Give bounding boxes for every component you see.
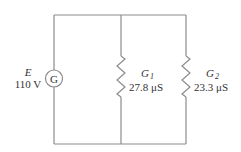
- resistor-g2-icon: [182, 56, 190, 97]
- g2-name: G2: [206, 67, 219, 81]
- circuit-diagram: G E 110 V G1 27.8 μS G2 23.3 μS: [0, 0, 241, 152]
- g2-value: 23.3 μS: [194, 81, 228, 93]
- generator-symbol: G: [50, 73, 58, 85]
- source-name: E: [24, 66, 32, 78]
- source-value: 110 V: [15, 78, 42, 90]
- g1-value: 27.8 μS: [129, 81, 163, 93]
- g1-name: G1: [141, 67, 154, 81]
- resistor-g1-icon: [117, 56, 125, 97]
